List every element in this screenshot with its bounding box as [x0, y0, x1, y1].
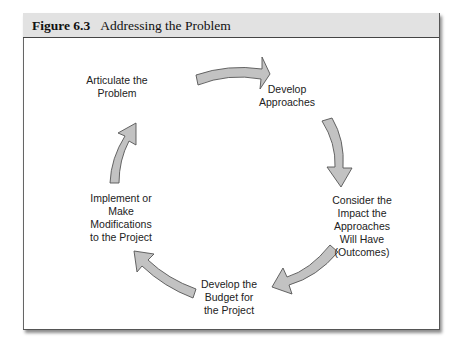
node-implement-modifications: Implement or Make Modifications to the P… [90, 192, 152, 244]
node-articulate-problem: Articulate the Problem [86, 74, 147, 100]
node-line: Modifications [90, 218, 152, 231]
node-line: Problem [86, 87, 147, 100]
node-line: to the Project [90, 231, 152, 244]
node-line: Implement or [90, 192, 152, 205]
node-line: Impact the [332, 207, 392, 220]
node-line: Approaches [332, 220, 392, 233]
arrow-impact-to-budget-icon [272, 245, 338, 294]
node-line: Approaches [259, 96, 315, 109]
node-develop-budget: Develop the Budget for the Project [201, 278, 257, 317]
node-line: Will Have [332, 233, 392, 246]
node-line: Make [90, 205, 152, 218]
arrow-budget-to-implement-icon [134, 251, 196, 298]
arrow-implement-to-articulate-icon [110, 123, 136, 183]
node-line: Consider the [332, 194, 392, 207]
node-line: Develop [259, 83, 315, 96]
node-line: Develop the [201, 278, 257, 291]
node-develop-approaches: Develop Approaches [259, 83, 315, 109]
node-line: (Outcomes) [332, 246, 392, 259]
node-line: Budget for [201, 291, 257, 304]
node-line: the Project [201, 304, 257, 317]
node-consider-impact: Consider the Impact the Approaches Will … [332, 194, 392, 259]
node-line: Articulate the [86, 74, 147, 87]
arrow-approaches-to-impact-icon [322, 118, 352, 187]
